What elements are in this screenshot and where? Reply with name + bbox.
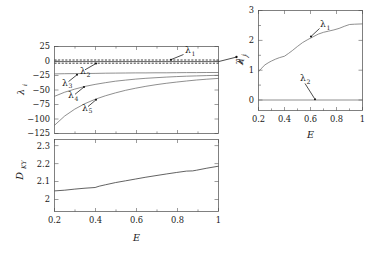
bottom-left-y-ticks [55, 146, 219, 200]
bottom-left-y-axis-label-base: D [14, 172, 25, 181]
curve-lambda-1-zoom [259, 24, 363, 72]
bottom-left-ytick-3: 2.3 [37, 141, 50, 151]
bottom-left-xtick-0: 0.2 [48, 215, 61, 225]
right-ytick-3: 3 [249, 5, 254, 15]
right-x-axis-label: E [306, 129, 314, 140]
lambda-1-label-base: λ [185, 44, 191, 55]
top-left-ytick-5: −100 [27, 114, 50, 124]
top-left-ytick-6: −125 [27, 128, 50, 138]
curve-dky [55, 166, 219, 191]
bottom-left-x-axis-label: E [132, 232, 140, 243]
lambda-3-annotation-top-left: λ 3 [62, 74, 78, 90]
right-xtick-4: 1 [360, 114, 365, 124]
bottom-left-y-axis-label: D KY [14, 160, 27, 181]
figure-root: 25 0 −25 −50 −75 −100 −125 λ i λ 1 λ 2 [0, 0, 371, 255]
right-xtick-3: 0.8 [330, 114, 343, 124]
lambda-5-label-base: λ [82, 102, 88, 113]
bottom-left-xtick-1: 0.4 [89, 215, 102, 225]
lambda-5-annotation-top-left: λ 5 [82, 99, 97, 115]
lambda-2-label-base: λ [80, 65, 86, 76]
bottom-left-xtick-2: 0.6 [130, 215, 143, 225]
curve-lambda-4 [55, 75, 219, 96]
lambda-4-label-sub: 4 [75, 95, 79, 102]
lambda-1-annotation-right: λ 1 [310, 18, 331, 38]
right-xtick-2: 0.6 [304, 114, 317, 124]
lambda-1-label-sub: 1 [192, 50, 196, 57]
top-left-y-axis-label-sub: i [21, 84, 28, 86]
right-y-ticks [259, 11, 363, 101]
bottom-left-ytick-1: 2.1 [37, 176, 50, 186]
lambda-2-label-sub: 2 [87, 71, 91, 78]
figure-svg: 25 0 −25 −50 −75 −100 −125 λ i λ 1 λ 2 [0, 0, 371, 255]
lambda-4-label-base: λ [68, 89, 74, 100]
bottom-left-xtick-3: 0.8 [171, 215, 184, 225]
top-left-axes-frame [55, 47, 219, 134]
bottom-left-ytick-2: 2.2 [37, 159, 50, 169]
top-left-ytick-0: 25 [39, 41, 50, 51]
bottom-left-xtick-4: 1 [216, 215, 221, 225]
top-left-ytick-1: 0 [45, 56, 50, 66]
bottom-left-x-ticks [55, 140, 219, 212]
top-left-y-ticks [55, 47, 219, 134]
lambda-2-annotation-top-left: λ 2 [80, 62, 97, 77]
right-xtick-0: 0.2 [252, 114, 265, 124]
right-lambda-2-label-sub: 2 [307, 78, 311, 85]
right-ytick-1: 1 [249, 65, 254, 75]
top-left-ytick-4: −75 [32, 99, 50, 109]
lambda-2-annotation-right: λ 2 [300, 72, 316, 100]
top-left-y-axis-label-base: λ [15, 89, 26, 96]
right-lambda-2-label-base: λ [300, 72, 306, 83]
top-left-ytick-2: −25 [32, 70, 50, 80]
lambda-5-label-sub: 5 [89, 107, 93, 114]
bottom-left-ytick-0: 2 [45, 194, 50, 204]
bottom-left-axes-frame [55, 140, 219, 212]
top-left-ytick-3: −50 [32, 85, 50, 95]
lambda-3-label-base: λ [62, 77, 68, 88]
curve-lambda-5 [55, 78, 219, 125]
top-left-y-axis-label: λ i [15, 84, 28, 96]
right-ytick-2: 2 [249, 35, 254, 45]
right-ytick-0: 0 [249, 95, 254, 105]
panel-bottom-left: 2.3 2.2 2.1 2 D KY 0.2 0.4 0.6 0.8 1 E [14, 140, 221, 244]
right-lambda-1-label-base: λ [320, 18, 326, 29]
top-left-x-ticks [75, 47, 198, 134]
panel-right: 3 2 1 0 λ i λ 1 λ 2 0.2 0.4 0.6 0.8 1 [234, 5, 365, 140]
right-xtick-1: 0.4 [278, 114, 291, 124]
panel-top-left: 25 0 −25 −50 −75 −100 −125 λ i λ 1 λ 2 [15, 41, 219, 138]
bottom-left-y-axis-label-sub: KY [20, 160, 27, 170]
right-lambda-1-label-sub: 1 [327, 24, 331, 31]
